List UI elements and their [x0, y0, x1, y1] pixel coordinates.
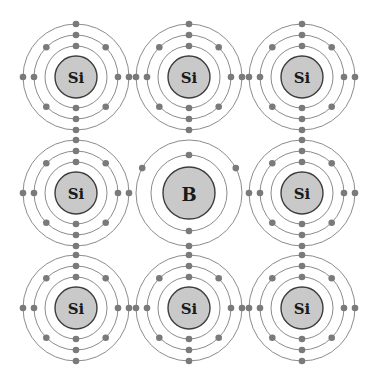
electron-dot: [102, 160, 109, 167]
electron-dot: [228, 305, 235, 312]
electron-dot: [257, 74, 264, 81]
electron-dot: [269, 334, 276, 341]
electron-dot: [43, 103, 50, 110]
electron-dot: [144, 74, 151, 81]
electron-dot: [299, 252, 306, 259]
electron-dot: [186, 116, 193, 123]
electron-dot: [115, 74, 122, 81]
element-symbol-label: Si: [294, 185, 311, 203]
electron-dot: [299, 32, 306, 39]
electron-dot: [299, 21, 306, 28]
electron-dot: [73, 159, 80, 166]
electron-dot: [269, 219, 276, 226]
electron-dot: [269, 44, 276, 51]
electron-dot: [269, 275, 276, 282]
electron-dot: [139, 165, 146, 172]
electron-dot: [115, 190, 122, 197]
electron-dot: [126, 190, 133, 197]
electron-dot: [299, 221, 306, 228]
electron-dot: [73, 243, 80, 250]
electron-dot: [186, 347, 193, 354]
electron-dot: [102, 44, 109, 51]
electron-dot: [186, 152, 193, 159]
electron-dot: [186, 336, 193, 343]
electron-dot: [299, 232, 306, 239]
electron-dot: [43, 44, 50, 51]
electron-dot: [186, 127, 193, 134]
electron-dot: [126, 74, 133, 81]
electron-dot: [31, 190, 38, 197]
electron-dot: [73, 232, 80, 239]
electron-dot: [328, 160, 335, 167]
electron-dot: [186, 228, 193, 235]
electron-dot: [186, 358, 193, 365]
electron-dot: [73, 358, 80, 365]
electron-dot: [186, 43, 193, 50]
electron-dot: [215, 275, 222, 282]
electron-dot: [156, 334, 163, 341]
electron-dot: [102, 103, 109, 110]
atom-si: Si: [246, 21, 359, 134]
atom-si: Si: [20, 137, 133, 250]
electron-dot: [328, 275, 335, 282]
electron-dot: [299, 274, 306, 281]
electron-dot: [299, 127, 306, 134]
element-symbol-label: Si: [181, 69, 198, 87]
electron-dot: [269, 160, 276, 167]
electron-dot: [186, 105, 193, 112]
element-symbol-label: Si: [68, 300, 85, 318]
electron-dot: [299, 159, 306, 166]
electron-dot: [352, 74, 359, 81]
electron-dot: [73, 116, 80, 123]
electron-dot: [186, 243, 193, 250]
electron-dot: [20, 190, 27, 197]
electron-dot: [341, 74, 348, 81]
electron-dot: [269, 103, 276, 110]
electron-dot: [299, 347, 306, 354]
element-symbol-label: Si: [68, 185, 85, 203]
atom-si: Si: [133, 252, 246, 365]
electron-dot: [299, 263, 306, 270]
atom-si: Si: [20, 21, 133, 134]
electron-dot: [299, 336, 306, 343]
electron-dot: [186, 274, 193, 281]
element-symbol-label: Si: [294, 300, 311, 318]
electron-dot: [215, 334, 222, 341]
electron-dot: [299, 116, 306, 123]
electron-dot: [352, 305, 359, 312]
element-symbol-label: Si: [68, 69, 85, 87]
electron-dot: [102, 219, 109, 226]
silicon-boron-lattice-diagram: Boron-doped silicon lattice (p-type) SiS…: [0, 0, 377, 383]
electron-dot: [246, 190, 253, 197]
electron-dot: [341, 305, 348, 312]
electron-dot: [186, 252, 193, 259]
electron-dot: [156, 275, 163, 282]
electron-dot: [73, 43, 80, 50]
electron-dot: [328, 44, 335, 51]
element-symbol-label: Si: [294, 69, 311, 87]
electron-dot: [73, 347, 80, 354]
electron-dot: [133, 74, 140, 81]
electron-dot: [73, 221, 80, 228]
electron-dot: [352, 190, 359, 197]
electron-dot: [299, 105, 306, 112]
electron-dot: [102, 275, 109, 282]
electron-dot: [299, 148, 306, 155]
electron-dot: [20, 305, 27, 312]
element-symbol-label: B: [181, 184, 196, 205]
electron-dot: [73, 252, 80, 259]
element-symbol-label: Si: [181, 300, 198, 318]
electron-dot: [215, 44, 222, 51]
electron-dot: [43, 275, 50, 282]
electron-dot: [73, 336, 80, 343]
electron-dot: [299, 243, 306, 250]
electron-dot: [186, 263, 193, 270]
electron-dot: [73, 274, 80, 281]
electron-dot: [133, 305, 140, 312]
electron-dot: [257, 190, 264, 197]
electron-dot: [102, 334, 109, 341]
electron-dot: [299, 358, 306, 365]
electron-dot: [73, 32, 80, 39]
electron-dot: [43, 160, 50, 167]
electron-dot: [73, 263, 80, 270]
